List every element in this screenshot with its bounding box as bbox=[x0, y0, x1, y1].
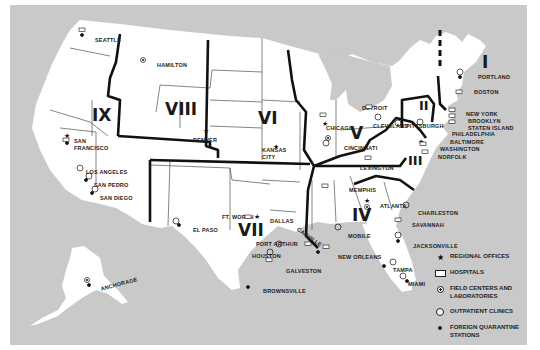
legend-label: OUTPATIENT CLINICS bbox=[450, 307, 513, 315]
open-circle-icon bbox=[395, 120, 401, 126]
open-circle-icon bbox=[457, 69, 463, 75]
map-legend: ★ REGIONAL OFFICES HOSPITALS FIELD CENTE… bbox=[434, 252, 534, 346]
filled-dot-icon bbox=[66, 142, 69, 145]
legend-item-hospitals: HOSPITALS bbox=[434, 268, 534, 277]
filled-dot-icon bbox=[434, 324, 446, 332]
open-circle-icon bbox=[173, 218, 179, 224]
dotted-circle-icon bbox=[434, 285, 446, 293]
hospital-rect-icon bbox=[266, 258, 272, 262]
open-circle-icon bbox=[86, 173, 92, 179]
filled-dot-icon bbox=[247, 286, 250, 289]
legend-label: FOREIGN QUARANTINE STATIONS bbox=[450, 323, 534, 339]
open-circle-icon bbox=[276, 241, 282, 247]
legend-item-foreign-quarantine: FOREIGN QUARANTINE STATIONS bbox=[434, 323, 534, 339]
open-circle-icon bbox=[434, 308, 446, 316]
legend-item-outpatient-clinics: OUTPATIENT CLINICS bbox=[434, 307, 534, 316]
filled-dot-icon bbox=[91, 192, 94, 195]
open-circle-icon bbox=[335, 224, 341, 230]
open-circle-icon bbox=[390, 259, 396, 265]
open-circle-icon bbox=[395, 232, 401, 238]
legend-label: FIELD CENTERS AND LABORATORIES bbox=[450, 284, 534, 300]
hospital-rect-icon bbox=[320, 113, 326, 117]
hospital-rect-icon bbox=[449, 108, 455, 112]
star-icon: ★ bbox=[273, 143, 279, 150]
hospital-rect-icon bbox=[422, 150, 428, 154]
hospital-rect-icon bbox=[449, 114, 455, 118]
filled-dot-icon bbox=[88, 284, 91, 287]
hospital-rect-icon bbox=[456, 90, 462, 94]
filled-dot-icon bbox=[397, 240, 400, 243]
open-circle-icon bbox=[417, 119, 423, 125]
hospital-rect-icon bbox=[395, 218, 401, 222]
map-container: I II III IV V VI VII VIII IX SEATTLE HAM… bbox=[0, 0, 540, 350]
star-icon: ★ bbox=[364, 197, 370, 204]
hospital-rect-icon bbox=[420, 142, 426, 146]
open-circle-icon bbox=[267, 249, 273, 255]
open-circle-icon bbox=[403, 202, 409, 208]
hospital-rect-icon bbox=[323, 245, 329, 249]
legend-label: REGIONAL OFFICES bbox=[450, 252, 509, 260]
filled-dot-icon bbox=[317, 251, 320, 254]
filled-dot-icon bbox=[406, 280, 409, 283]
open-circle-icon bbox=[375, 114, 381, 120]
filled-dot-icon bbox=[81, 34, 84, 37]
legend-item-regional-offices: ★ REGIONAL OFFICES bbox=[434, 252, 534, 261]
hospital-rect-icon bbox=[245, 215, 251, 219]
open-circle-icon bbox=[323, 140, 329, 146]
hospital-rect-icon bbox=[434, 269, 446, 277]
hospital-rect-icon bbox=[63, 138, 69, 142]
legend-item-field-centers: FIELD CENTERS AND LABORATORIES bbox=[434, 284, 534, 300]
hospital-rect-icon bbox=[79, 28, 85, 32]
open-circle-icon bbox=[77, 165, 83, 171]
hospital-rect-icon bbox=[322, 184, 328, 188]
star-icon: ★ bbox=[322, 120, 328, 127]
filled-dot-icon bbox=[459, 76, 462, 79]
legend-label: HOSPITALS bbox=[450, 268, 484, 276]
filled-dot-icon bbox=[178, 224, 181, 227]
open-circle-icon bbox=[400, 273, 406, 279]
hospital-rect-icon bbox=[366, 105, 372, 109]
filled-dot-icon bbox=[383, 265, 386, 268]
hospital-rect-icon bbox=[365, 156, 371, 160]
filled-dot-icon bbox=[85, 179, 88, 182]
hospital-rect-icon bbox=[305, 242, 311, 246]
star-icon: ★ bbox=[254, 213, 260, 220]
star-icon: ★ bbox=[434, 253, 446, 261]
open-circle-icon bbox=[92, 186, 98, 192]
hospital-rect-icon bbox=[449, 120, 455, 124]
star-icon: ★ bbox=[203, 127, 209, 134]
